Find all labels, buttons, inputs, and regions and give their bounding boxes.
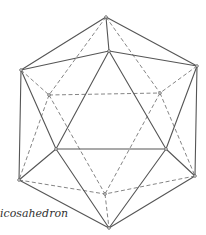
vertex-upper-center <box>108 50 111 53</box>
visible-edge <box>109 176 195 228</box>
visible-edge <box>21 17 106 70</box>
visible-edge <box>195 66 197 176</box>
visible-edges <box>19 17 197 228</box>
vertex-upper-left <box>20 69 23 72</box>
visible-edge <box>106 17 109 51</box>
icosahedron-diagram <box>0 0 206 235</box>
vertex-back-lower-center <box>104 193 107 196</box>
vertex-back-upper-right <box>159 92 162 95</box>
vertex-far-lower-left <box>18 179 21 182</box>
vertex-far-lower-right <box>194 175 197 178</box>
hidden-edge <box>160 93 195 176</box>
hidden-edge <box>105 176 195 194</box>
visible-edge <box>21 70 56 149</box>
vertex-top <box>105 16 108 19</box>
vertex-lower-right-front <box>165 148 168 151</box>
visible-edge <box>166 66 197 149</box>
hidden-edge <box>105 93 160 194</box>
figure-label: icosahedron <box>0 207 68 220</box>
visible-edge <box>21 51 109 70</box>
visible-edge <box>109 149 166 228</box>
hidden-edge <box>49 17 106 95</box>
vertex-upper-right <box>196 65 199 68</box>
visible-edge <box>19 70 21 180</box>
vertex-back-upper-left <box>48 94 51 97</box>
vertex-bottom <box>108 227 111 230</box>
vertex-lower-left-front <box>55 148 58 151</box>
hidden-edges <box>19 17 197 228</box>
hidden-edge <box>21 70 49 95</box>
hidden-edge <box>49 93 160 95</box>
visible-edge <box>166 149 195 176</box>
visible-edge <box>56 51 109 149</box>
